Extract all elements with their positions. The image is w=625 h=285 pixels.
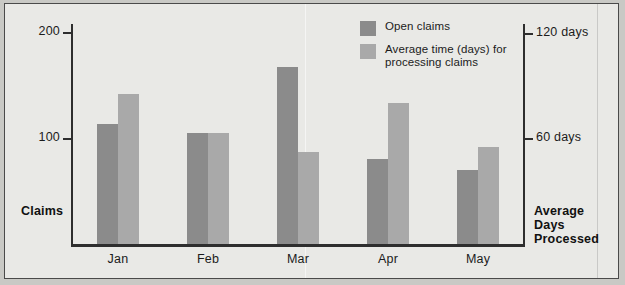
left-axis-title: Claims [21, 204, 63, 218]
x-axis-baseline [71, 244, 525, 247]
x-axis-category-label: Jan [97, 252, 139, 266]
bar-open-claims [367, 159, 388, 244]
bar-average-time [478, 147, 499, 244]
left-axis-tick-mark [63, 32, 71, 34]
left-axis-tick-label: 200 [39, 24, 60, 38]
right-axis-title: Average Days Processed [534, 204, 618, 246]
bar-average-time [298, 152, 319, 244]
bar-average-time [388, 103, 409, 244]
x-axis-category-label: Mar [277, 252, 319, 266]
bar-group: Apr [367, 24, 409, 244]
right-axis-spine [523, 24, 525, 244]
bar-open-claims [97, 124, 118, 244]
left-axis-tick-label: 100 [39, 130, 60, 144]
chart-figure: Open claims Average time (days) for proc… [4, 3, 619, 279]
bar-group: Feb [187, 24, 229, 244]
right-axis-tick-mark [525, 33, 533, 35]
left-axis-tick-mark [63, 138, 71, 140]
x-axis-category-label: Apr [367, 252, 409, 266]
left-axis-spine [71, 24, 73, 244]
x-axis-category-label: Feb [187, 252, 229, 266]
bar-average-time [118, 94, 139, 244]
plot-area: 200100 120 days60 days JanFebMarAprMay [73, 24, 523, 244]
right-axis-tick-label: 120 days [536, 25, 588, 39]
x-axis-category-label: May [457, 252, 499, 266]
right-axis-title-line1: Average Days [534, 204, 618, 232]
bar-open-claims [187, 133, 208, 244]
bar-open-claims [277, 67, 298, 244]
bar-group: Jan [97, 24, 139, 244]
right-axis-title-line2: Processed [534, 232, 618, 246]
bar-open-claims [457, 170, 478, 244]
right-axis-tick-mark [525, 138, 533, 140]
right-axis-tick-label: 60 days [536, 130, 581, 144]
bar-group: May [457, 24, 499, 244]
bar-group: Mar [277, 24, 319, 244]
bar-average-time [208, 133, 229, 244]
